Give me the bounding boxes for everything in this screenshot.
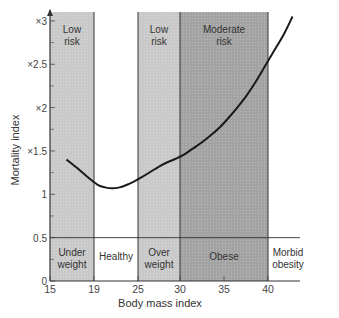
y-tick-label: ×1.5 bbox=[27, 146, 47, 157]
x-tick-label: 30 bbox=[174, 283, 186, 295]
category-underweight: Under bbox=[58, 247, 86, 258]
y-tick-label: ×2.5 bbox=[27, 59, 47, 70]
y-tick-label: 0.5 bbox=[33, 233, 47, 244]
category-overweight: Over bbox=[148, 247, 170, 258]
risk-label-low-overweight: Low bbox=[150, 24, 169, 35]
x-tick-label: 35 bbox=[218, 283, 230, 295]
risk-label-moderate: Moderate bbox=[203, 24, 246, 35]
category-underweight: weight bbox=[57, 259, 87, 270]
x-tick-label: 15 bbox=[44, 283, 56, 295]
bmi-bands bbox=[50, 12, 268, 281]
category-obese: Obese bbox=[209, 251, 239, 262]
band-texture-0 bbox=[50, 12, 94, 281]
x-tick-label: 19 bbox=[88, 283, 100, 295]
y-tick-label: ×2 bbox=[36, 103, 48, 114]
bmi-mortality-chart: 00.51×1.5×2×2.5×3151925303540 LowriskLow… bbox=[0, 0, 339, 318]
category-overweight: weight bbox=[144, 259, 174, 270]
category-morbid-obesity: Morbid bbox=[273, 247, 304, 258]
risk-label-low-overweight: risk bbox=[151, 36, 168, 47]
y-tick-label: 1 bbox=[41, 189, 47, 200]
category-morbid-obesity: obesity bbox=[272, 259, 304, 270]
risk-label-low-underweight: risk bbox=[64, 36, 81, 47]
y-axis-label: Mortality index bbox=[9, 114, 21, 185]
x-tick-label: 25 bbox=[132, 283, 144, 295]
band-texture-2 bbox=[138, 12, 180, 281]
x-axis-label: Body mass index bbox=[118, 297, 202, 309]
band-texture-3 bbox=[180, 12, 268, 281]
category-healthy: Healthy bbox=[99, 251, 133, 262]
y-tick-label: ×3 bbox=[36, 16, 48, 27]
x-tick-label: 40 bbox=[262, 283, 274, 295]
risk-label-low-underweight: Low bbox=[63, 24, 82, 35]
risk-label-moderate: risk bbox=[216, 36, 233, 47]
